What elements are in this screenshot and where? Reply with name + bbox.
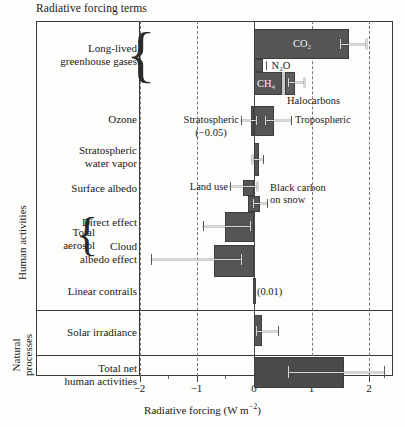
gridline-plus2 xyxy=(369,21,370,376)
errorbar-co2-cap-low xyxy=(340,39,341,49)
ticklabel-plus2: 2 xyxy=(366,382,372,394)
errorbar-solar-line xyxy=(256,331,278,332)
errorbar-n2o-cap xyxy=(266,61,267,70)
plot-frame xyxy=(36,21,393,376)
annotation-halocarbons: Halocarbons xyxy=(287,95,340,107)
errorbar-land-use-cap-high xyxy=(257,182,258,191)
bar-aerosol-cloud-albedo-effect xyxy=(214,245,254,277)
errorbar-ch4-cap-low xyxy=(288,78,289,87)
annotation-black-carbon: Black carbon on snow xyxy=(270,182,326,205)
errorbar-ozone-trop-cap-high xyxy=(291,116,292,125)
annotation-black-carbon-line2: on snow xyxy=(270,194,305,205)
errorbar-total-line xyxy=(288,372,384,373)
tick-minor-minus1p5 xyxy=(168,376,169,379)
errorbar-cloud-cap-low xyxy=(151,254,152,265)
x-axis-title-close: ) xyxy=(257,404,261,416)
errorbar-solar-cap-low xyxy=(256,326,257,336)
annotation-stratospheric: Stratospheric xyxy=(184,114,239,126)
bar-n2o xyxy=(254,59,263,72)
row-label-swv-line1: Stratospheric xyxy=(79,144,137,156)
side-label-natural-processes: Naturalprocesses xyxy=(10,334,34,376)
bar-ozone-tropospheric xyxy=(254,106,274,136)
errorbar-ozone-trop-line xyxy=(265,120,291,121)
bar-linear-contrails xyxy=(253,278,256,304)
errorbar-ch4-cap-high xyxy=(304,78,305,87)
errorbar-direct-line xyxy=(203,226,250,227)
annotation-black-carbon-line1: Black carbon xyxy=(270,182,326,193)
row-label-cloud-albedo-effect: Cloud albedo effect xyxy=(80,240,137,265)
gridline-minus1 xyxy=(197,21,198,376)
errorbar-co2-cap-high xyxy=(366,39,367,49)
errorbar-swv-cap-low xyxy=(252,155,253,164)
annotation-ozone-value: (−0.05) xyxy=(195,127,226,139)
errorbar-land-use-line xyxy=(230,186,257,187)
radiative-forcing-figure: Radiative forcing terms −2 −1 0 1 2 Radi… xyxy=(0,0,405,427)
row-label-ozone: Ozone xyxy=(108,113,137,126)
errorbar-ch4-line xyxy=(288,82,304,83)
row-label-linear-contrails: Linear contrails xyxy=(68,285,137,298)
annotation-n2o: N₂O xyxy=(272,60,291,72)
row-label-swv-line2: water vapor xyxy=(85,157,137,169)
brace-greenhouse-gases: { xyxy=(126,23,156,85)
annotation-co2: CO₂ xyxy=(293,38,311,50)
errorbar-direct-cap-high xyxy=(250,221,251,231)
errorbar-ozone-strat-cap-high xyxy=(256,116,257,125)
annotation-tropospheric: Tropospheric xyxy=(295,114,351,126)
row-label-direct-effect: Direct effect xyxy=(82,216,137,229)
errorbar-ozone-strat-cap-low xyxy=(241,116,242,125)
bar-black-carbon-on-snow xyxy=(248,196,260,212)
errorbar-total-cap-low xyxy=(288,366,289,378)
row-label-total-line1: Total net xyxy=(98,362,137,374)
side-label-natural-line1: Natural xyxy=(10,338,22,371)
errorbar-cloud-line xyxy=(151,259,241,260)
row-label-cloud-line2: albedo effect xyxy=(80,253,137,265)
side-label-human-activities: Human activities xyxy=(16,205,28,280)
errorbar-swv-line xyxy=(252,159,263,160)
errorbar-total-cap-high xyxy=(384,366,385,378)
bar-land-use xyxy=(243,180,254,196)
row-label-surface-albedo: Surface albedo xyxy=(71,182,137,195)
errorbar-solar-cap-high xyxy=(278,326,279,336)
errorbar-black-carbon-line xyxy=(253,203,267,204)
errorbar-direct-cap-low xyxy=(203,221,204,231)
annotation-land-use: Land use xyxy=(190,181,228,193)
row-label-solar-irradiance: Solar irradiance xyxy=(67,326,137,339)
bar-halocarbons xyxy=(285,72,295,95)
x-axis-title-exponent: −2 xyxy=(249,402,258,411)
band-separator-total xyxy=(36,355,393,356)
row-label-cloud-line1: Cloud xyxy=(110,240,137,252)
side-label-natural-line2: processes xyxy=(22,334,34,376)
errorbar-cloud-cap-high xyxy=(241,254,242,265)
band-separator-natural xyxy=(36,310,393,311)
x-axis-title-main: Radiative forcing (W m xyxy=(144,404,249,416)
errorbar-ozone-trop-cap-low xyxy=(265,116,266,125)
x-axis-title: Radiative forcing (W m−2) xyxy=(0,402,405,416)
row-label-total-line2: human activities xyxy=(65,375,137,387)
tick-minor-minus0p5 xyxy=(225,376,226,379)
errorbar-ozone-strat-line xyxy=(241,120,256,121)
errorbar-black-carbon-cap-low xyxy=(253,199,254,208)
row-label-stratospheric-water-vapor: Stratospheric water vapor xyxy=(79,144,137,169)
figure-title: Radiative forcing terms xyxy=(36,2,147,14)
errorbar-swv-cap-high xyxy=(263,155,264,164)
ticklabel-minus1: −1 xyxy=(191,382,203,394)
annotation-contrails-value: (0.01) xyxy=(257,286,282,298)
row-label-total-net-human-activities: Total net human activities xyxy=(65,362,137,387)
errorbar-land-use-cap-low xyxy=(230,182,231,191)
errorbar-co2-line xyxy=(340,44,366,45)
errorbar-black-carbon-cap-high xyxy=(267,199,268,208)
annotation-ch4: CH₄ xyxy=(257,78,275,90)
